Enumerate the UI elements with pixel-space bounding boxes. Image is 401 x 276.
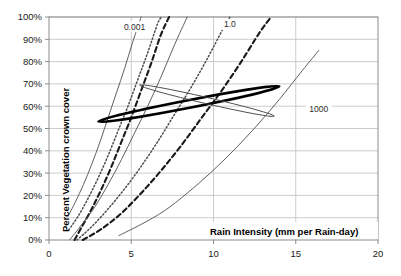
y-tick-label-1: 10%: [23, 212, 43, 223]
y-tick-label-9: 90%: [23, 34, 43, 45]
y-tick-label-10: 100%: [18, 11, 43, 22]
chart-container: 0%10%20%30%40%50%60%70%80%90%100% 051015…: [0, 0, 401, 276]
y-tick-label-6: 60%: [23, 101, 43, 112]
y-tick-label-2: 20%: [23, 190, 43, 201]
x-axis-title-text: Rain Intensity (mm per Rain-day): [210, 226, 358, 237]
y-tick-label-0: 0%: [28, 234, 42, 245]
curve-label-0001: 0.001: [124, 22, 146, 32]
y-tick-label-3: 30%: [23, 168, 43, 179]
x-tick-label-3: 15: [290, 248, 301, 259]
y-tick-label-7: 70%: [23, 78, 43, 89]
x-tick-label-2: 10: [208, 248, 219, 259]
vegetation-rain-intensity-chart: 0%10%20%30%40%50%60%70%80%90%100% 051015…: [0, 0, 401, 276]
x-tick-label-1: 5: [129, 248, 134, 259]
y-tick-label-5: 50%: [23, 123, 43, 134]
y-tick-label-8: 80%: [23, 56, 43, 67]
y-axis-title-text: Percent Vegetation crown cover: [60, 88, 71, 232]
x-tick-label-4: 20: [373, 248, 384, 259]
y-axis-title: Percent Vegetation crown cover: [60, 88, 71, 232]
x-tick-label-0: 0: [46, 248, 51, 259]
curve-label-10: 1.0: [224, 19, 236, 29]
curve-label-1000: 1000: [309, 104, 328, 114]
x-axis-title: Rain Intensity (mm per Rain-day): [206, 222, 378, 239]
y-tick-label-4: 40%: [23, 145, 43, 156]
